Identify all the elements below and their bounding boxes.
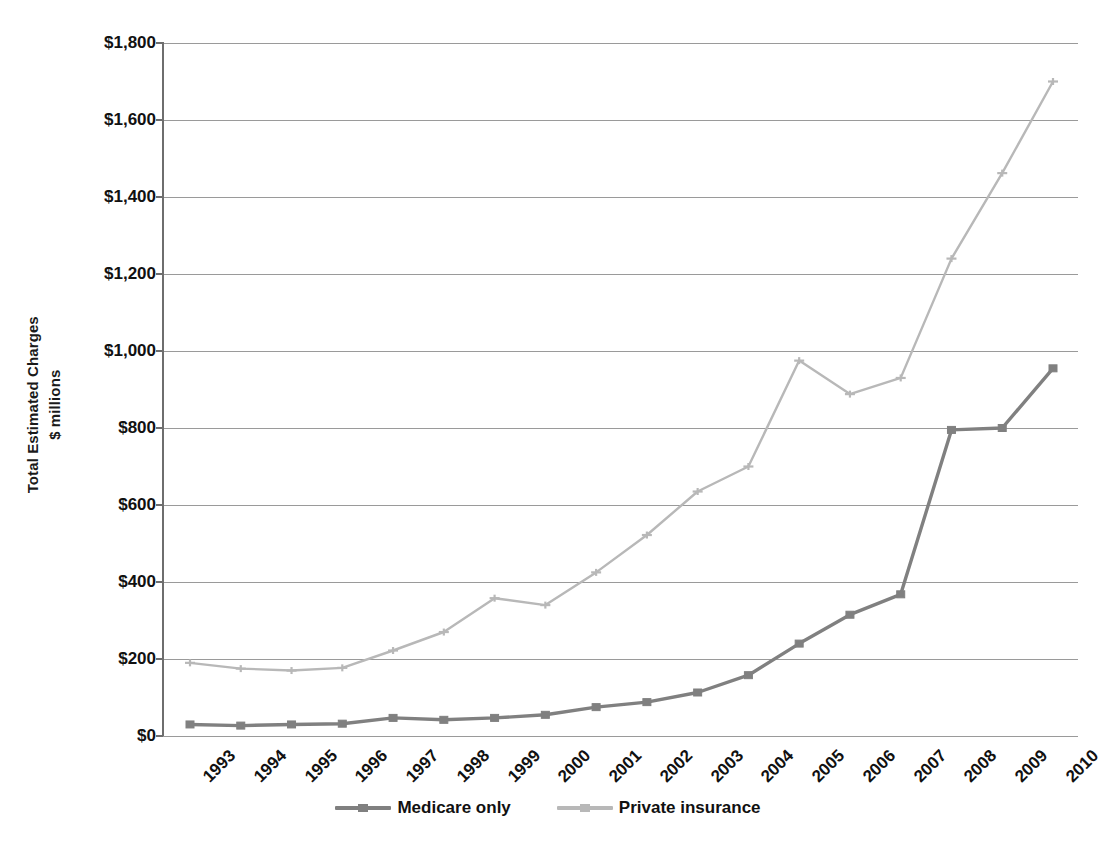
legend-label: Medicare only [397,798,510,818]
x-tick-label: 2000 [554,746,595,787]
x-tick-label: 1998 [453,746,494,787]
x-tick-label: 1997 [402,746,443,787]
x-tick-label: 2001 [605,746,646,787]
chart-legend: Medicare onlyPrivate insurance [0,798,1096,818]
x-tick-label: 2010 [1062,746,1102,787]
x-tick-label: 1994 [250,746,291,787]
x-tick-label: 1993 [199,746,240,787]
legend-item[interactable]: Medicare only [335,798,510,818]
legend-marker [580,804,590,812]
legend-swatch-icon [335,801,391,815]
x-tick-label: 1996 [351,746,392,787]
x-tick-label: 2009 [1011,746,1052,787]
x-tick-label: 2008 [961,746,1002,787]
legend-item[interactable]: Private insurance [557,798,761,818]
x-tick-label: 2004 [757,746,798,787]
x-tick-label: 1999 [504,746,545,787]
legend-swatch-icon [557,801,613,815]
legend-label: Private insurance [619,798,761,818]
x-tick-label: 2005 [808,746,849,787]
legend-marker [358,804,368,812]
x-tick-label: 2003 [707,746,748,787]
x-tick-label: 2006 [859,746,900,787]
x-tick-label: 2002 [656,746,697,787]
x-tick-label: 2007 [910,746,951,787]
x-tick-label: 1995 [301,746,342,787]
